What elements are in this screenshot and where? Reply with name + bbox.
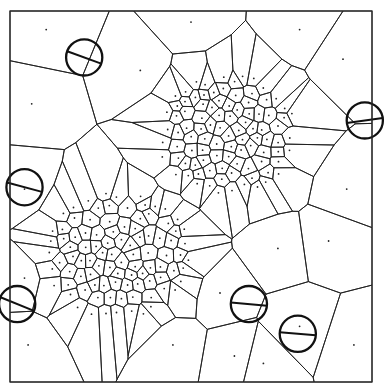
site-point [160, 266, 162, 268]
voronoi-cell [208, 82, 220, 100]
voronoi-cell [259, 164, 274, 179]
site-point [263, 152, 265, 154]
site-point [31, 103, 33, 105]
site-point [196, 183, 198, 185]
voronoi-cell [169, 111, 184, 125]
site-point [266, 99, 268, 101]
voronoi-cell [275, 78, 310, 114]
site-point [67, 284, 69, 286]
site-point [102, 252, 104, 254]
site-point [257, 137, 259, 139]
circle-chord [1, 297, 35, 311]
site-point [160, 276, 162, 278]
site-point [132, 254, 134, 256]
site-point [24, 277, 26, 279]
site-point [129, 245, 131, 247]
voronoi-cell [235, 144, 250, 159]
site-point [167, 129, 169, 131]
site-point [258, 113, 260, 115]
site-point [103, 285, 105, 287]
voronoi-cell [179, 210, 225, 237]
site-point [149, 280, 151, 282]
voronoi-cell [87, 277, 100, 293]
site-point [223, 76, 225, 78]
voronoi-cell [10, 145, 64, 230]
voronoi-cell [271, 134, 286, 147]
voronoi-cell [150, 186, 165, 216]
circle-chord [67, 51, 101, 63]
site-point [353, 344, 355, 346]
site-point [196, 81, 198, 83]
site-point [248, 168, 250, 170]
site-point [80, 275, 82, 277]
voronoi-cell [209, 150, 223, 164]
site-point [228, 156, 230, 158]
voronoi-cell [209, 135, 225, 150]
site-point [105, 193, 107, 195]
voronoi-cell [131, 230, 145, 248]
site-point [277, 142, 279, 144]
site-point [202, 103, 204, 105]
circle-top-left [66, 39, 102, 75]
site-point [211, 107, 213, 109]
site-point [204, 138, 206, 140]
site-point [221, 178, 223, 180]
voronoi-cell [256, 59, 292, 95]
voronoi-cell [192, 111, 211, 124]
voronoi-cell [52, 252, 68, 272]
site-point [216, 155, 218, 157]
site-point [266, 139, 268, 141]
site-point [177, 132, 179, 134]
voronoi-cell [83, 11, 173, 124]
site-point [51, 268, 53, 270]
site-point [48, 252, 50, 254]
voronoi-cell [194, 99, 210, 111]
site-point [170, 240, 172, 242]
site-point [97, 207, 99, 209]
voronoi-cell [271, 66, 309, 109]
site-point [109, 267, 111, 269]
site-point [186, 127, 188, 129]
site-point [96, 234, 98, 236]
site-point [89, 219, 91, 221]
voronoi-cell [111, 304, 129, 379]
site-point [159, 237, 161, 239]
site-point [142, 273, 144, 275]
site-point [174, 289, 176, 291]
site-point [110, 297, 112, 299]
site-point [45, 29, 47, 31]
voronoi-cell [117, 148, 170, 178]
site-point [236, 163, 238, 165]
site-point [299, 29, 301, 31]
voronoi-cell [32, 276, 61, 318]
site-point [244, 184, 246, 186]
voronoi-cell [103, 260, 116, 277]
site-point [235, 95, 237, 97]
site-point [191, 150, 193, 152]
voronoi-cell [49, 288, 79, 315]
site-point [166, 255, 168, 257]
voronoi-cell [134, 11, 247, 54]
site-point [89, 260, 91, 262]
site-point [116, 196, 118, 198]
voronoi-cell [224, 111, 238, 126]
voronoi-cell [200, 178, 218, 208]
site-point [203, 159, 205, 161]
voronoi-cell [127, 163, 158, 205]
site-point [87, 200, 89, 202]
site-point [210, 124, 212, 126]
site-point [120, 262, 122, 264]
voronoi-cell [61, 277, 78, 291]
voronoi-cell [180, 106, 196, 120]
site-point [150, 267, 152, 269]
site-point [234, 355, 236, 357]
voronoi-cell [198, 317, 258, 382]
circle-chord [7, 183, 42, 192]
site-point [238, 130, 240, 132]
site-point [240, 149, 242, 151]
site-point [175, 230, 177, 232]
site-point [248, 102, 250, 104]
site-point [229, 115, 231, 117]
site-point [176, 105, 178, 107]
site-point [52, 230, 54, 232]
